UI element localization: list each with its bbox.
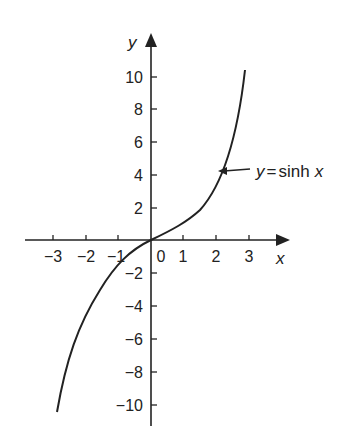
x-tick-1: 1 (179, 248, 188, 265)
x-tick-m2: −2 (77, 248, 95, 265)
curve-annotation: y=sinhx (218, 162, 324, 181)
y-tick-6: 6 (134, 134, 143, 151)
y-tick-m8: −8 (125, 364, 143, 381)
y-axis: 10 8 6 4 2 −2 −4 −6 −8 −10 y (116, 33, 157, 426)
y-tick-m4: −4 (125, 298, 143, 315)
y-tick-8: 8 (134, 101, 143, 118)
y-tick-m2: −2 (125, 265, 143, 282)
x-axis-label: x (275, 249, 285, 268)
y-tick-m6: −6 (125, 331, 143, 348)
x-tick-m3: −3 (44, 248, 62, 265)
sinh-chart: −3 −2 −1 0 1 2 3 x 10 8 6 4 2 −2 −4 −6 (0, 0, 360, 448)
x-tick-0: 0 (157, 248, 166, 265)
y-tick-2: 2 (134, 200, 143, 217)
x-axis: −3 −2 −1 0 1 2 3 x (25, 234, 290, 268)
y-tick-m10: −10 (116, 397, 143, 414)
x-tick-2: 2 (212, 248, 221, 265)
y-axis-label: y (127, 33, 138, 52)
y-tick-10: 10 (125, 69, 143, 86)
x-axis-arrow-icon (276, 234, 290, 246)
x-tick-3: 3 (245, 248, 254, 265)
annotation-label: y=sinhx (255, 162, 324, 181)
x-tick-m1: −1 (107, 248, 125, 265)
y-axis-arrow-icon (145, 33, 157, 47)
y-tick-4: 4 (134, 167, 143, 184)
